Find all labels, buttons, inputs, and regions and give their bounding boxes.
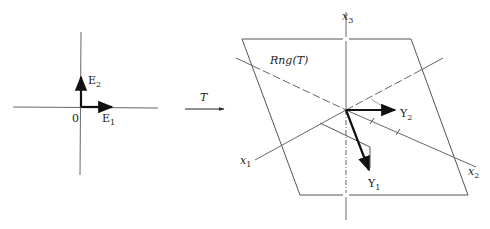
plane-label: Rng(T) — [269, 54, 308, 67]
y2-projection-line — [371, 99, 385, 108]
y2-label: Y2 — [399, 107, 412, 122]
e1-label: E1 — [102, 112, 115, 127]
y1-projection-lines — [320, 123, 370, 168]
x1-axis-hidden — [346, 70, 421, 110]
x1-axis-visible — [255, 110, 346, 160]
x1-axis-outer — [421, 58, 443, 70]
mapping-arrow: T — [185, 91, 224, 109]
linear-transformation-diagram: E2 0 E1 T x3 R — [0, 0, 490, 229]
t-label: T — [200, 91, 209, 104]
domain-plane: E2 0 E1 — [13, 32, 158, 175]
x2-axis-hidden — [253, 66, 346, 110]
x3-label: x3 — [342, 10, 353, 25]
x2-label: x2 — [468, 165, 479, 180]
origin-label: 0 — [72, 112, 79, 125]
x1-label: x1 — [240, 154, 251, 169]
e2-label: E2 — [88, 74, 101, 89]
codomain-space: x3 Rng(T) Y2 Y1 x1 x2 — [236, 10, 479, 220]
y1-label: Y1 — [367, 177, 380, 192]
